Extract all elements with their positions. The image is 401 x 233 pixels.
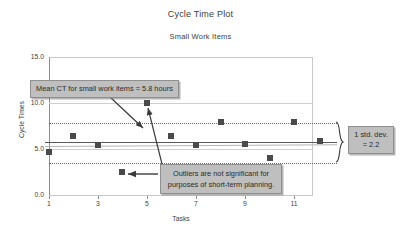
data-point [95,142,101,148]
data-point [242,141,248,147]
x-tick-3: 3 [89,200,107,207]
chart-canvas: Cycle Time Plot Small Work Items 15.0 10… [0,0,401,233]
data-point [119,169,125,175]
x-tickmark-5 [147,196,148,199]
data-point [317,138,323,144]
std-dev-brace [336,122,343,162]
x-tickmark-3 [98,196,99,199]
callout-std-dev: 1 std. dev. = 2.2 [348,126,394,154]
chart-title: Cycle Time Plot [0,9,401,19]
data-point [267,155,273,161]
gridline-10 [49,103,313,104]
x-tick-11: 11 [285,200,303,207]
x-tickmark-9 [245,196,246,199]
x-axis-title: Tasks [131,215,231,222]
data-point [193,142,199,148]
x-tickmark-7 [196,196,197,199]
y-tick-15: 15.0 [18,53,44,60]
data-point [168,133,174,139]
callout-mean-text: Mean CT for small work items = 5.8 hours [36,84,173,93]
callout-std-line2: = 2.2 [354,140,388,150]
data-point [218,119,224,125]
y-tick-0: 0.0 [18,191,44,198]
x-tickmark-1 [49,196,50,199]
data-point [144,100,150,106]
x-tick-7: 7 [187,200,205,207]
callout-mean-ct: Mean CT for small work items = 5.8 hours [30,80,179,98]
x-tickmark-11 [294,196,295,199]
data-point [46,149,52,155]
mean-line [45,142,337,143]
data-point [291,119,297,125]
x-tick-1: 1 [40,200,58,207]
x-tick-5: 5 [138,200,156,207]
data-point [70,133,76,139]
y-axis-title: Cycle Times [18,90,25,150]
chart-subtitle: Small Work Items [0,32,401,41]
callout-outliers-line2: purposes of short-term planning. [166,179,276,190]
callout-outliers-line1: Outliers are not significant for [166,168,276,179]
callout-std-line1: 1 std. dev. [354,130,388,140]
callout-outliers: Outliers are not significant for purpose… [160,164,282,194]
x-tick-9: 9 [236,200,254,207]
gridline-5 [49,149,313,150]
